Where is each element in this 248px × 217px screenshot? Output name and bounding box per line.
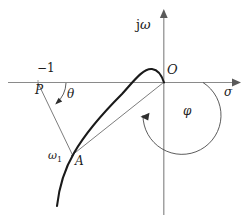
frequency-label: ω1 <box>48 150 62 164</box>
line-O-to-A <box>71 83 164 157</box>
phi-arc <box>141 83 221 155</box>
phase-margin-angle-label: θ <box>67 88 74 100</box>
origin-label: O <box>167 63 178 76</box>
locus-point-label: A <box>75 155 84 167</box>
nyquist-diagram <box>0 0 248 217</box>
phi-arc-arrowhead <box>141 113 150 121</box>
imaginary-axis-arrowhead <box>160 9 168 18</box>
real-axis-arrowhead <box>232 79 241 87</box>
critical-point-value-label: −1 <box>37 62 55 74</box>
theta-arc <box>55 83 66 105</box>
critical-point-label: P <box>35 84 43 96</box>
real-axis-label: σ <box>224 86 232 98</box>
phi-arc-path <box>143 83 221 155</box>
imaginary-axis <box>160 9 168 215</box>
theta-arc-arrowhead <box>55 98 62 105</box>
phase-angle-label: φ <box>183 105 191 117</box>
imaginary-axis-label: jω <box>136 18 151 31</box>
